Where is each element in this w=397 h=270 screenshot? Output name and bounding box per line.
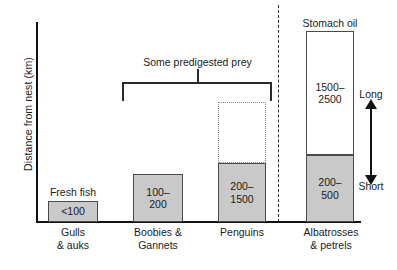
arrow-shaft xyxy=(370,108,372,176)
bar-segment-grey-boobies: 100– 200 xyxy=(133,174,183,222)
bar-segment-dotted-penguins xyxy=(218,102,266,163)
bar-segment-grey-gulls: <100 xyxy=(48,201,98,222)
bar-segment-grey-penguins: 200– 1500 xyxy=(218,163,266,222)
long-short-double-arrow-icon xyxy=(364,108,378,176)
bracket-right-tick xyxy=(270,82,272,101)
seabird-foraging-distance-chart: Distance from nest (km) Some predigested… xyxy=(0,0,397,270)
bar-penguins: 200– 1500 xyxy=(218,102,266,222)
category-label-albatrosses-petrels: Albatrosses & petrels xyxy=(292,226,370,252)
group-divider-dashed-line xyxy=(278,5,279,222)
category-label-gulls-auks: Gulls & auks xyxy=(38,226,108,252)
bracket-left-tick xyxy=(122,82,124,101)
annotation-stomach-oil: Stomach oil xyxy=(282,17,378,29)
bracket-stem xyxy=(197,69,199,82)
category-label-penguins: Penguins xyxy=(207,226,277,239)
scale-label-short: Short xyxy=(343,180,397,192)
annotation-fresh-fish: Fresh fish xyxy=(22,186,124,198)
category-label-boobies-gannets: Boobies & Gannets xyxy=(118,226,198,252)
predigested-prey-bracket xyxy=(122,82,272,101)
bracket-top-line xyxy=(122,82,272,84)
arrow-head-up-icon xyxy=(365,99,377,109)
y-axis-label: Distance from nest (km) xyxy=(22,34,34,194)
bar-gulls-auks: <100 xyxy=(48,201,98,222)
bar-boobies-gannets: 100– 200 xyxy=(133,174,183,222)
bracket-label: Some predigested prey xyxy=(110,56,285,68)
bar-albatrosses-petrels: 1500– 2500 200– 500 xyxy=(306,31,354,222)
